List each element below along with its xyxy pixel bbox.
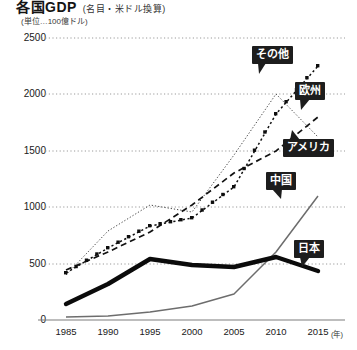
callout-tail-europe bbox=[300, 99, 310, 110]
callout-tail-china bbox=[272, 189, 282, 199]
series-line-other bbox=[66, 66, 318, 273]
callout-japan[interactable]: 日本 bbox=[294, 240, 324, 258]
callout-europe[interactable]: 欧州 bbox=[295, 82, 325, 100]
callout-america[interactable]: アメリカ bbox=[283, 139, 334, 157]
chart-plot-area bbox=[0, 0, 357, 350]
series-line-other-path bbox=[66, 66, 318, 273]
chart-container: 各国GDP(名目・米ドル換算) (単位…100億ドル) 2500 2000 15… bbox=[0, 0, 357, 350]
callout-tail-other bbox=[258, 63, 266, 74]
series-markers-other bbox=[64, 64, 319, 274]
callout-other[interactable]: その他 bbox=[252, 46, 293, 64]
callout-china[interactable]: 中国 bbox=[266, 172, 296, 190]
